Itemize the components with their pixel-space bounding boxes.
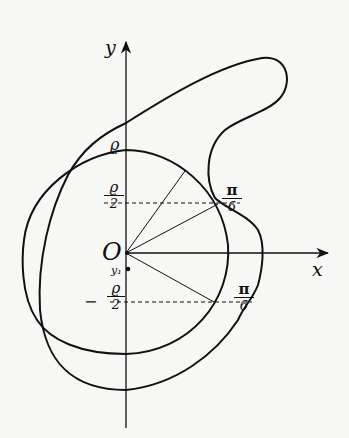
diagram-canvas: y x O ϱ ϱ 2 − ϱ 2 π 6 π 6 y₁ (0, 0, 349, 438)
loop-curve (40, 58, 287, 390)
minus-sign: − (84, 294, 97, 310)
pi-sixth-upper-label: π 6 (222, 183, 242, 213)
fraction-denominator: 6 (234, 297, 254, 312)
y1-label: y₁ (111, 265, 122, 276)
origin-label: O (102, 240, 122, 264)
fraction-numerator: π (234, 282, 254, 297)
fraction-denominator: 6 (222, 198, 242, 213)
y-axis-label: y (105, 38, 116, 57)
fraction-denominator: 2 (107, 296, 125, 311)
radius-upper-pi6 (126, 204, 218, 253)
fraction-numerator: ϱ (107, 281, 125, 296)
origin-point (125, 251, 129, 255)
x-axis-label: x (312, 260, 323, 279)
rho-half-upper-label: ϱ 2 (104, 180, 124, 210)
radius-lower-pi6 (126, 253, 214, 302)
fraction-numerator: π (222, 183, 242, 198)
fraction-denominator: 2 (104, 195, 124, 210)
rho-label: ϱ (110, 137, 119, 153)
fraction-numerator: ϱ (104, 180, 124, 195)
pi-sixth-lower-label: π 6 (234, 282, 254, 312)
y1-point (126, 267, 131, 272)
diagram-svg (0, 0, 349, 438)
rho-half-lower-label: ϱ 2 (107, 281, 125, 311)
radius-upper-steep (126, 171, 185, 253)
